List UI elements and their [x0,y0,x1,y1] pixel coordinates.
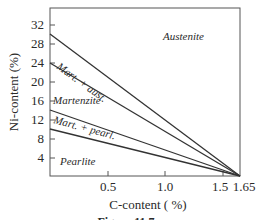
x-tick-0.5: 0.5 [100,179,116,194]
line-ni10 [50,129,240,176]
y-tick-16: 16 [31,93,45,108]
phase-diagram-chart: 4 8 12 16 20 24 28 32 0.5 1.0 1.5 1.65 A… [0,0,264,220]
x-tick-1.65: 1.65 [233,179,256,194]
x-tick-1.0: 1.0 [157,179,173,194]
y-tick-24: 24 [31,55,45,70]
figure-caption: Figure 11.7 [97,215,154,220]
x-axis-title: C-content ( %) [109,197,186,212]
y-axis [50,25,55,158]
y-tick-12: 12 [31,112,44,127]
y-tick-8: 8 [38,131,45,146]
y-tick-32: 32 [31,17,44,32]
x-axis [108,171,223,176]
y-axis-title: Ni-content (%) [6,53,21,131]
y-tick-4: 4 [38,150,45,165]
region-martenzite: Martenzite [52,94,101,106]
x-tick-1.5: 1.5 [212,179,228,194]
y-tick-20: 20 [31,74,44,89]
plot-frame [50,8,240,176]
region-austenite: Austenite [162,30,204,42]
region-pearlite: Pearlite [59,155,96,167]
y-tick-28: 28 [31,36,44,51]
